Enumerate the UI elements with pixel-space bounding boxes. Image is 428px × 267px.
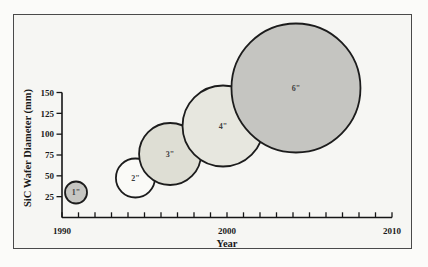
bubble-label-4in: 4": [219, 122, 227, 131]
x-axis-title: Year: [217, 238, 238, 249]
x-tick-label-2000: 2000: [218, 226, 237, 236]
y-axis-title: SiC Wafer Diameter (mm): [22, 88, 34, 207]
y-tick-label-25: 25: [45, 192, 55, 202]
bubble-label-3in: 3": [166, 150, 174, 159]
x-tick-label-1990: 1990: [53, 226, 72, 236]
y-tick-label-100: 100: [41, 129, 55, 139]
sic-wafer-bubble-chart: 1"2"3"4"6"199020002010255075100125150Yea…: [0, 0, 428, 267]
y-tick-label-50: 50: [45, 171, 55, 181]
y-tick-label-75: 75: [45, 150, 55, 160]
bubble-label-1in: 1": [72, 188, 80, 197]
figure-page: 1"2"3"4"6"199020002010255075100125150Yea…: [0, 0, 428, 267]
y-tick-label-150: 150: [41, 88, 55, 98]
bubble-label-2in: 2": [131, 174, 139, 183]
bubble-label-6in: 6": [292, 84, 300, 93]
x-tick-label-2010: 2010: [383, 226, 402, 236]
y-tick-label-125: 125: [41, 109, 55, 119]
